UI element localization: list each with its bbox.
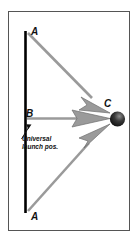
label-point-c: C: [104, 99, 111, 109]
label-universal-launch-position: Universal launch pos.: [22, 135, 58, 151]
diagram-canvas: [9, 12, 131, 232]
note-line-1: Universal: [22, 135, 58, 143]
diagram-page: A B C A Universal launch pos.: [0, 0, 139, 243]
label-point-b: B: [26, 109, 33, 119]
label-point-a-top: A: [31, 27, 38, 37]
label-point-a-bottom: A: [31, 212, 38, 222]
note-line-2: launch pos.: [22, 143, 58, 151]
arrow-b-to-c: [27, 110, 110, 127]
arrow-a-top-to-c: [28, 33, 110, 113]
diagram-frame: A B C A Universal launch pos.: [8, 11, 130, 231]
target-sphere: [110, 111, 125, 126]
